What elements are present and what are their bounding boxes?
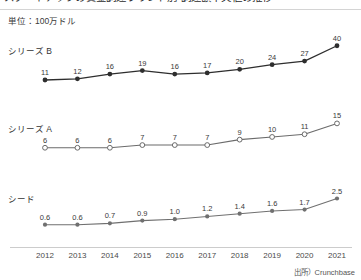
data-label: 1.4	[234, 202, 244, 211]
line-chart-seed: 0.60.60.70.91.01.21.41.61.72.5	[0, 174, 361, 244]
data-point	[270, 62, 275, 67]
data-label: 6	[108, 136, 112, 145]
data-point	[205, 214, 209, 218]
data-point	[335, 43, 340, 48]
x-tick-2020: 2020	[288, 251, 322, 260]
data-label: 19	[138, 59, 146, 68]
data-label: 0.6	[40, 213, 50, 222]
data-label: 24	[268, 53, 276, 62]
data-label: 16	[171, 62, 179, 71]
title-divider	[0, 9, 361, 10]
x-tick-2012: 2012	[28, 251, 62, 260]
data-label: 6	[43, 136, 47, 145]
data-label: 11	[41, 68, 49, 77]
x-tick-2013: 2013	[60, 251, 94, 260]
data-point	[270, 135, 275, 140]
panel-seed: シード 0.60.60.70.91.01.21.41.61.72.5	[0, 174, 361, 244]
data-point	[270, 209, 274, 213]
data-point	[75, 223, 79, 227]
data-label: 16	[106, 62, 114, 71]
data-point	[335, 121, 340, 126]
chart-title-clip: スタートアップの資金調達ラウンド別 調達額中央値の推移	[0, 0, 361, 9]
data-point	[43, 223, 47, 227]
data-point	[108, 221, 112, 225]
data-point	[172, 143, 177, 148]
data-point	[302, 207, 306, 211]
data-point	[335, 196, 339, 200]
data-label: 1.2	[202, 204, 212, 213]
data-point	[302, 132, 307, 137]
x-axis-tick-labels: 2012201320142015201620172018201920202021	[0, 251, 361, 265]
data-label: 2.5	[332, 187, 342, 196]
unit-label: 単位：100万ドル	[8, 14, 76, 26]
data-point	[140, 143, 145, 148]
line-path	[45, 199, 337, 225]
x-axis-line	[10, 247, 352, 248]
panel-series-b: シリーズ B 11121619161720242740	[0, 30, 361, 102]
data-label: 40	[333, 34, 341, 43]
data-point	[205, 71, 210, 76]
data-label: 7	[205, 133, 209, 142]
data-point	[43, 78, 48, 83]
data-label: 15	[333, 111, 341, 120]
x-tick-2015: 2015	[125, 251, 159, 260]
x-tick-2016: 2016	[158, 251, 192, 260]
data-label: 10	[268, 125, 276, 134]
data-point	[43, 145, 48, 150]
chart-title: スタートアップの資金調達ラウンド別 調達額中央値の推移	[4, 0, 272, 3]
data-point	[140, 218, 144, 222]
data-label: 0.7	[105, 211, 115, 220]
data-label: 7	[173, 133, 177, 142]
x-tick-2018: 2018	[223, 251, 257, 260]
data-point	[140, 68, 145, 73]
data-point	[173, 217, 177, 221]
data-point	[75, 145, 80, 150]
data-point	[107, 145, 112, 150]
panel-series-a: シリーズ A 6667779101115	[0, 102, 361, 174]
data-label: 17	[203, 61, 211, 70]
data-label: 1.0	[170, 207, 180, 216]
data-label: 27	[300, 49, 308, 58]
source-note: 出所）Crunchbase	[294, 266, 355, 277]
data-label: 0.6	[72, 213, 82, 222]
data-point	[237, 67, 242, 72]
line-path	[45, 123, 337, 147]
data-point	[237, 137, 242, 142]
line-chart-series-b: 11121619161720242740	[0, 30, 361, 102]
data-point	[172, 72, 177, 77]
data-label: 1.7	[299, 198, 309, 207]
data-label: 1.6	[267, 199, 277, 208]
x-tick-2019: 2019	[255, 251, 289, 260]
line-path	[45, 46, 337, 80]
data-label: 20	[235, 57, 243, 66]
x-tick-2021: 2021	[320, 251, 354, 260]
data-label: 12	[73, 67, 81, 76]
data-point	[107, 72, 112, 77]
data-point	[75, 76, 80, 81]
x-tick-2017: 2017	[190, 251, 224, 260]
data-label: 7	[140, 133, 144, 142]
data-label: 11	[301, 122, 309, 131]
data-label: 0.9	[137, 209, 147, 218]
line-chart-series-a: 6667779101115	[0, 102, 361, 174]
data-point	[238, 212, 242, 216]
data-label: 9	[238, 128, 242, 137]
data-point	[205, 143, 210, 148]
x-tick-2014: 2014	[93, 251, 127, 260]
data-point	[302, 59, 307, 64]
data-label: 6	[75, 136, 79, 145]
